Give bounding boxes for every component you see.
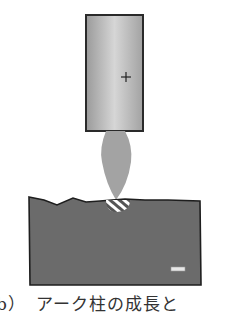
electrode (86, 15, 143, 131)
figure-caption: b） アーク柱の成長と (0, 290, 226, 312)
minus-sign-icon (171, 267, 185, 271)
arc-column (101, 131, 131, 200)
